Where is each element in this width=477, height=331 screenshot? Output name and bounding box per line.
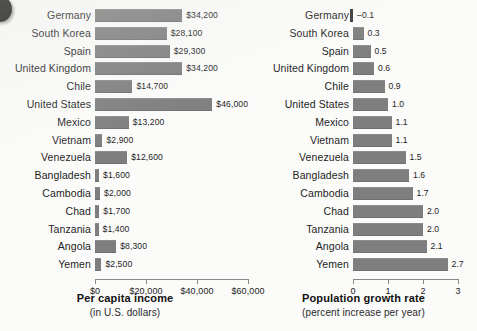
category-label: Bangladesh (250, 168, 349, 182)
bar (95, 116, 129, 129)
bar-value-label: 1.5 (410, 151, 422, 164)
category-label: Spain (250, 44, 349, 58)
bar-value-label: 1.6 (413, 169, 425, 182)
bar-value-label: $2,900 (106, 134, 133, 147)
bar (95, 134, 102, 147)
bar-value-label: $1,400 (103, 223, 130, 236)
category-label: Germany (0, 8, 91, 22)
axis-title-growth: Population growth rate (250, 292, 477, 304)
bar (95, 80, 132, 93)
bar-value-label: $2,000 (104, 187, 131, 200)
bar-value-label: $12,600 (131, 151, 163, 164)
category-label: United States (0, 97, 91, 111)
bar-value-label: $34,200 (186, 9, 218, 22)
bar (95, 169, 99, 182)
bar (353, 187, 413, 200)
bar-value-label: 0.5 (375, 45, 387, 58)
category-label: United Kingdom (250, 61, 349, 75)
bar-value-label: $1,700 (103, 205, 130, 218)
axis-tick (458, 279, 459, 284)
bar-value-label: $46,000 (216, 98, 248, 111)
bar (350, 9, 354, 22)
x-axis-line-growth (353, 279, 458, 280)
bar-value-label: 0.3 (368, 27, 380, 40)
bar-value-label: $1,600 (103, 169, 130, 182)
bar-value-label: 0.6 (378, 62, 390, 75)
category-label: Vietnam (0, 133, 91, 147)
bar-value-label: $13,200 (133, 116, 165, 129)
category-label: Angola (0, 239, 91, 253)
bar-value-label: 2.1 (431, 240, 443, 253)
bar (353, 27, 364, 40)
category-label: South Korea (250, 26, 349, 40)
bar (353, 258, 448, 271)
axis-title-income: Per capita income (0, 292, 250, 304)
category-label: Chad (0, 204, 91, 218)
bar (353, 62, 374, 75)
panel-per-capita-income: Germany$34,200South Korea$28,100Spain$29… (0, 0, 250, 331)
axis-tick (95, 279, 96, 284)
bar (95, 98, 212, 111)
category-label: United Kingdom (0, 61, 91, 75)
axis-tick (388, 279, 389, 284)
category-label: Angola (250, 239, 349, 253)
bar-value-label: 0.9 (389, 80, 401, 93)
category-label: Mexico (0, 115, 91, 129)
category-label: Spain (0, 44, 91, 58)
axis-subtitle-growth: (percent increase per year) (250, 307, 477, 318)
category-label: Yemen (0, 257, 91, 271)
bar (353, 151, 406, 164)
bar (95, 187, 100, 200)
axis-tick (353, 279, 354, 284)
bar (95, 258, 101, 271)
panel-population-growth-rate: Germany–0.1South Korea0.3Spain0.5United … (250, 0, 477, 331)
category-label: Mexico (250, 115, 349, 129)
bar (95, 62, 182, 75)
bar-value-label: $8,300 (120, 240, 147, 253)
category-label: Cambodia (250, 186, 349, 200)
bar-value-label: 2.0 (427, 205, 439, 218)
bar-value-label: 1.7 (417, 187, 429, 200)
bar (353, 223, 423, 236)
bar (95, 223, 99, 236)
x-axis-line-income (95, 279, 248, 280)
bar (353, 45, 371, 58)
bar-value-label: $2,500 (105, 258, 132, 271)
axis-tick (423, 279, 424, 284)
bar-value-label: 2.7 (452, 258, 464, 271)
bar (353, 134, 392, 147)
axis-tick (146, 279, 147, 284)
bar-value-label: $14,700 (136, 80, 168, 93)
two-panel-bar-chart-figure: Germany$34,200South Korea$28,100Spain$29… (0, 0, 477, 331)
category-label: Yemen (250, 257, 349, 271)
category-label: United States (250, 97, 349, 111)
bar-value-label: $29,300 (174, 45, 206, 58)
axis-tick (248, 279, 249, 284)
bar-value-label: 2.0 (427, 223, 439, 236)
bar (95, 27, 167, 40)
bar (353, 169, 409, 182)
category-label: Vietnam (250, 133, 349, 147)
bar (353, 240, 427, 253)
bar-value-label: $28,100 (171, 27, 203, 40)
category-label: Venezuela (250, 150, 349, 164)
bar (95, 205, 99, 218)
bar (353, 80, 385, 93)
bar (95, 9, 182, 22)
axis-subtitle-income: (in U.S. dollars) (0, 307, 250, 318)
category-label: Chad (250, 204, 349, 218)
bar-value-label: $34,200 (186, 62, 218, 75)
category-label: Cambodia (0, 186, 91, 200)
bar (353, 205, 423, 218)
bar-value-label: –0.1 (357, 9, 374, 22)
category-label: Bangladesh (0, 168, 91, 182)
category-label: Tanzania (250, 222, 349, 236)
category-label: Chile (250, 79, 349, 93)
bar (353, 116, 392, 129)
category-label: Venezuela (0, 150, 91, 164)
axis-tick (197, 279, 198, 284)
category-label: South Korea (0, 26, 91, 40)
bar-value-label: 1.0 (392, 98, 404, 111)
bar (95, 240, 116, 253)
bar-value-label: 1.1 (396, 134, 408, 147)
